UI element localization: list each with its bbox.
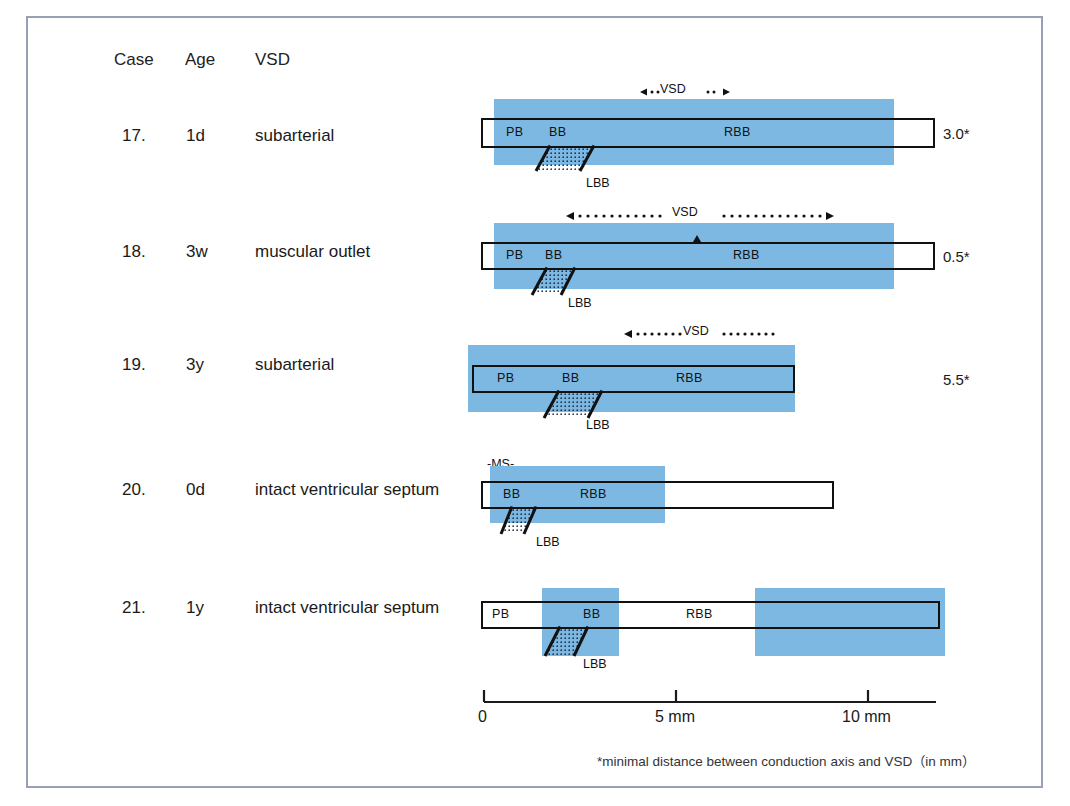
header-case: Case bbox=[114, 50, 154, 70]
row-17-case: 17. bbox=[122, 126, 146, 146]
row-18-distance: 0.5* bbox=[943, 248, 970, 265]
row-21-segment-rbb: RBB bbox=[686, 607, 713, 621]
row-19-lbb-label: LBB bbox=[586, 418, 610, 432]
row-18-vsd-type: muscular outlet bbox=[255, 242, 370, 262]
figure-canvas: Case Age VSD 17. 1d subarterial VSD PB B… bbox=[0, 0, 1070, 806]
row-21-age: 1y bbox=[186, 598, 204, 618]
row-19-segment-bb: BB bbox=[562, 371, 579, 385]
scale-tick-0: 0 bbox=[478, 708, 487, 726]
row-20-segment-bb: BB bbox=[503, 487, 520, 501]
row-17-distance: 3.0* bbox=[943, 125, 970, 142]
row-18-lbb-branch bbox=[529, 266, 639, 298]
row-20-vsd-type: intact ventricular septum bbox=[255, 480, 439, 500]
row-20-age: 0d bbox=[186, 480, 205, 500]
row-19-vsd-type: subarterial bbox=[255, 355, 334, 375]
row-17-age: 1d bbox=[186, 126, 205, 146]
row-17-segment-rbb: RBB bbox=[724, 125, 751, 139]
row-20-segment-rbb: RBB bbox=[580, 487, 607, 501]
row-18-segment-bb: BB bbox=[545, 248, 562, 262]
row-17-vsd-label: VSD bbox=[660, 82, 686, 96]
row-21-lbb-label: LBB bbox=[583, 657, 607, 671]
row-19-segment-rbb: RBB bbox=[676, 371, 703, 385]
scale-tick-5mm: 5 mm bbox=[655, 708, 695, 726]
row-21-lbb-branch bbox=[540, 625, 650, 659]
row-19-age: 3y bbox=[186, 355, 204, 375]
row-20-case: 20. bbox=[122, 480, 146, 500]
row-21-vsd-type: intact ventricular septum bbox=[255, 598, 439, 618]
row-17-lbb-branch bbox=[530, 144, 650, 174]
figure-footnote: *minimal distance between conduction axi… bbox=[597, 750, 975, 770]
row-20-lbb-label: LBB bbox=[536, 535, 560, 549]
row-19-vsd-label: VSD bbox=[683, 324, 709, 338]
row-21-segment-bb: BB bbox=[583, 607, 600, 621]
row-18-vsd-marker bbox=[566, 208, 834, 224]
row-21-case: 21. bbox=[122, 598, 146, 618]
row-18-lbb-label: LBB bbox=[568, 296, 592, 310]
scale-axis bbox=[470, 680, 950, 708]
row-21-segment-pb: PB bbox=[492, 607, 509, 621]
row-18-age: 3w bbox=[186, 242, 208, 262]
row-17-segment-pb: PB bbox=[506, 125, 523, 139]
header-vsd: VSD bbox=[255, 50, 290, 70]
row-17-lbb-label: LBB bbox=[586, 176, 610, 190]
row-17-segment-bb: BB bbox=[549, 125, 566, 139]
row-17-vsd-type: subarterial bbox=[255, 126, 334, 146]
row-19-lbb-branch bbox=[540, 389, 670, 421]
row-19-distance: 5.5* bbox=[943, 371, 970, 388]
scale-tick-10mm: 10 mm bbox=[842, 708, 891, 726]
header-age: Age bbox=[185, 50, 215, 70]
row-18-case: 18. bbox=[122, 242, 146, 262]
row-20-lbb-branch bbox=[500, 505, 600, 537]
row-19-segment-pb: PB bbox=[497, 371, 514, 385]
row-18-segment-pb: PB bbox=[506, 248, 523, 262]
row-18-segment-rbb: RBB bbox=[733, 248, 760, 262]
row-18-vsd-label: VSD bbox=[672, 205, 698, 219]
row-19-case: 19. bbox=[122, 355, 146, 375]
